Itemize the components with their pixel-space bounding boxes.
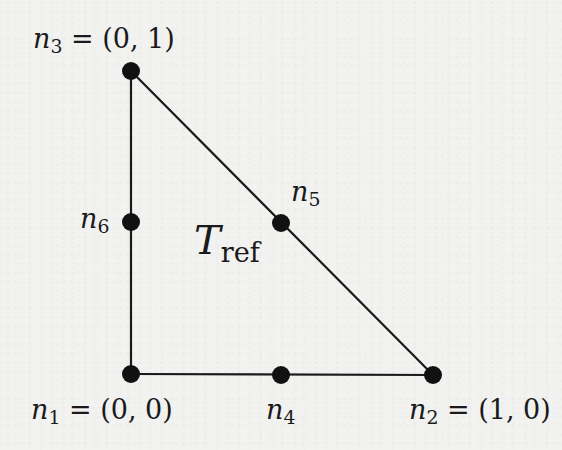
- node-n4: [272, 366, 290, 384]
- label-n4-symbol: n: [266, 394, 283, 425]
- label-n4: n4: [266, 396, 295, 423]
- label-n1-coords: = (0, 0): [60, 394, 172, 425]
- label-n1-index: 1: [48, 406, 60, 428]
- label-n5-symbol: n: [291, 176, 308, 207]
- label-n2-index: 2: [426, 406, 438, 428]
- label-n2: n2 = (1, 0): [409, 396, 551, 423]
- label-n5-index: 5: [308, 188, 320, 210]
- label-n5: n5: [291, 178, 320, 205]
- label-n3-symbol: n: [33, 23, 50, 54]
- tref-subscript: ref: [221, 237, 260, 268]
- label-n3-coords: = (0, 1): [62, 23, 174, 54]
- element-label-tref: Tref: [194, 220, 260, 260]
- label-n6: n6: [80, 205, 109, 232]
- label-n6-index: 6: [97, 215, 109, 237]
- diagram-canvas: n3 = (0, 1) n6 n5 Tref n1 = (0, 0) n4 n2…: [0, 0, 562, 450]
- node-n6: [122, 213, 140, 231]
- node-n2: [424, 366, 442, 384]
- label-n2-symbol: n: [409, 394, 426, 425]
- label-n6-symbol: n: [80, 203, 97, 234]
- label-n4-index: 4: [283, 406, 295, 428]
- node-n5: [272, 214, 290, 232]
- node-n3: [122, 62, 140, 80]
- label-n3: n3 = (0, 1): [33, 25, 175, 52]
- tref-symbol: T: [194, 217, 221, 263]
- label-n2-coords: = (1, 0): [438, 394, 550, 425]
- node-n1: [122, 365, 140, 383]
- label-n1: n1 = (0, 0): [31, 396, 173, 423]
- label-n3-index: 3: [50, 35, 62, 57]
- label-n1-symbol: n: [31, 394, 48, 425]
